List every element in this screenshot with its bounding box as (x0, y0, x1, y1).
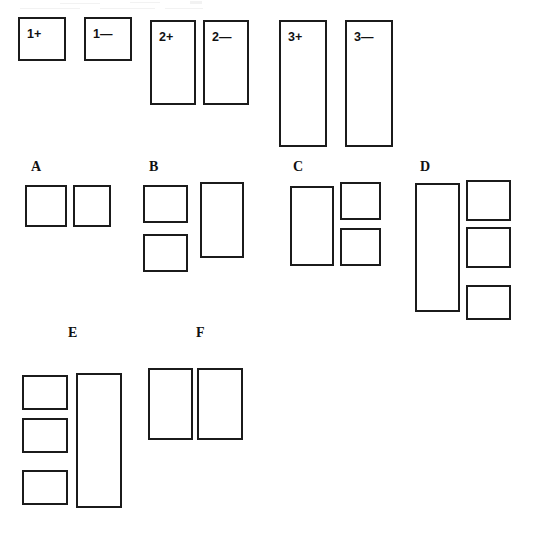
group-a-block[interactable] (73, 185, 111, 227)
group-a-block[interactable] (25, 185, 67, 227)
key-block[interactable] (279, 20, 327, 147)
scan-artifact (100, 8, 155, 9)
group-e-block[interactable] (22, 418, 68, 453)
group-d-block[interactable] (466, 180, 511, 221)
group-d-block[interactable] (466, 285, 511, 320)
group-b-block[interactable] (143, 185, 188, 223)
key-block-label: 3+ (288, 31, 302, 44)
group-c-block[interactable] (290, 186, 334, 266)
group-label-f: F (196, 326, 205, 340)
group-c-block[interactable] (340, 182, 381, 220)
group-b-block[interactable] (200, 182, 244, 258)
key-block-label: 2+ (159, 31, 173, 44)
diagram-sheet: 1+1—2+2—3+3— ABCDEF (0, 0, 533, 534)
group-f-block[interactable] (197, 368, 243, 440)
scan-artifact (20, 8, 80, 9)
scan-artifact (165, 8, 203, 9)
scan-artifact (190, 1, 202, 4)
group-f-block[interactable] (148, 368, 193, 440)
group-e-block[interactable] (22, 470, 68, 505)
key-block-label: 2— (212, 31, 231, 44)
group-label-d: D (420, 160, 430, 174)
key-block-label: 1+ (27, 28, 41, 41)
scan-artifact (60, 3, 100, 4)
scan-artifact (130, 2, 160, 3)
key-block-label: 3— (354, 31, 373, 44)
group-label-b: B (149, 160, 158, 174)
group-d-block[interactable] (415, 183, 460, 312)
group-label-e: E (68, 326, 77, 340)
group-c-block[interactable] (340, 228, 381, 266)
group-e-block[interactable] (22, 375, 68, 410)
group-d-block[interactable] (466, 227, 511, 268)
group-label-a: A (31, 160, 41, 174)
group-e-block[interactable] (76, 373, 122, 508)
key-block-label: 1— (93, 28, 112, 41)
key-block[interactable] (18, 17, 66, 61)
group-label-c: C (293, 160, 303, 174)
group-b-block[interactable] (143, 234, 188, 272)
